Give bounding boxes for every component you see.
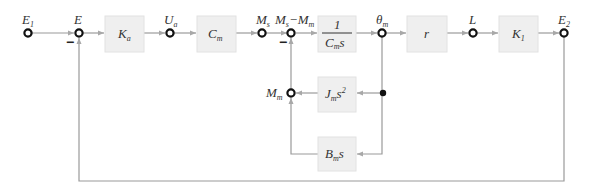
label-ua: Ua (164, 12, 177, 29)
block-diagram: Ka Cm 1 Cms r K1 Jms2 Bms E1 E Ua Ms Ms−… (0, 0, 590, 191)
label-e2: E2 (557, 12, 570, 29)
label-ms: Ms (255, 12, 270, 29)
node-theta-m (378, 29, 385, 36)
block-r: r (407, 16, 447, 52)
node-e1 (24, 29, 31, 36)
node-mm (287, 89, 294, 96)
label-theta-m: θm (376, 12, 388, 29)
block-bms: Bms (318, 137, 356, 171)
block-jms2: Jms2 (318, 77, 356, 112)
label-e1: E1 (21, 12, 34, 29)
minus-sign-e: − (66, 34, 74, 50)
label-l: L (468, 12, 476, 27)
arrow-icon (400, 31, 406, 36)
node-l (469, 29, 476, 36)
minus-sign-msmm: − (279, 34, 287, 50)
arrow-icon (289, 98, 294, 104)
arrow-icon (371, 31, 377, 36)
label-e: E (73, 12, 82, 27)
block-inv-cms: 1 Cms (318, 16, 356, 52)
label-ms-minus-mm: Ms−Mm (274, 12, 315, 29)
block-k1: K1 (499, 16, 538, 52)
arrow-icon (190, 31, 196, 36)
node-ua (166, 29, 173, 36)
wire-bms-mm (291, 98, 318, 154)
svg-text:1: 1 (334, 17, 341, 32)
block-cm: Cm (197, 16, 236, 52)
branch-point (380, 90, 386, 96)
arrow-icon (357, 91, 363, 96)
arrow-icon (462, 31, 468, 36)
wire-theta-down (357, 37, 382, 154)
arrow-icon (77, 38, 82, 44)
arrow-icon (289, 38, 294, 44)
node-ms (258, 29, 265, 36)
arrow-icon (98, 31, 104, 36)
node-e2 (560, 29, 567, 36)
arrow-icon (311, 31, 317, 36)
node-e (75, 29, 82, 36)
arrow-icon (251, 31, 257, 36)
label-mm: Mm (265, 85, 283, 102)
block-ka: Ka (105, 16, 144, 52)
arrow-icon (357, 152, 363, 157)
arrow-icon (553, 31, 559, 36)
node-ms-minus-mm (287, 29, 294, 36)
arrow-icon (159, 31, 165, 36)
arrow-icon (296, 91, 302, 96)
arrow-icon (492, 31, 498, 36)
